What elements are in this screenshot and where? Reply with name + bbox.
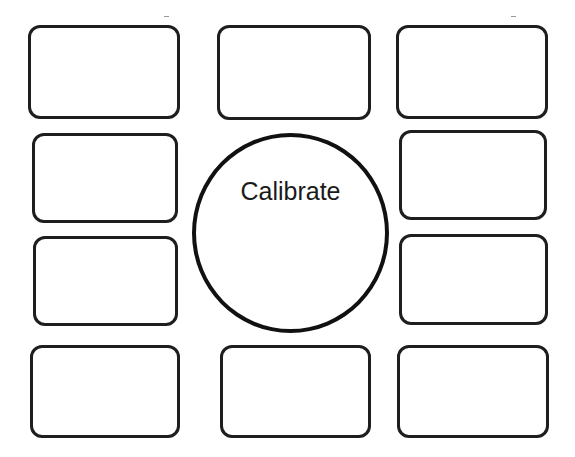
box-mid-lower-left xyxy=(33,236,178,326)
calibrate-label: Calibrate xyxy=(196,177,385,206)
stray-mark xyxy=(511,16,516,17)
box-bottom-right xyxy=(397,345,549,438)
box-top-right xyxy=(396,25,548,119)
calibrate-circle: Calibrate xyxy=(192,133,389,333)
box-mid-lower-right xyxy=(399,234,548,325)
box-bottom-left xyxy=(30,345,180,438)
stray-mark xyxy=(164,16,169,17)
box-top-left xyxy=(28,25,180,119)
box-top-center xyxy=(217,25,371,120)
box-mid-upper-left xyxy=(32,133,178,223)
box-bottom-center xyxy=(220,345,371,438)
box-mid-upper-right xyxy=(399,130,547,220)
